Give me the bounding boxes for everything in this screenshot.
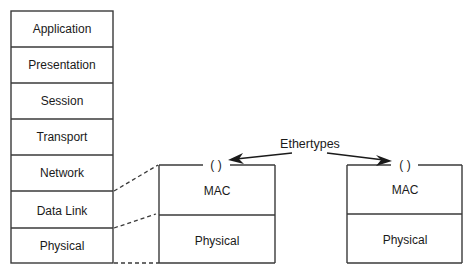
diagram-canvas: Application Presentation Session Transpo… — [0, 0, 475, 277]
ethertype-field: ( ) — [210, 158, 221, 172]
arrow-right-shaft — [327, 153, 384, 160]
ethertypes-annotation: Ethertypes — [228, 137, 392, 166]
physical-layer-label: Physical — [383, 233, 428, 247]
ethertypes-label: Ethertypes — [280, 137, 340, 151]
layer-presentation: Presentation — [28, 58, 95, 72]
ethertype-field: ( ) — [399, 158, 410, 172]
ethernet-stack-2: ( ) MAC Physical — [347, 158, 462, 263]
layer-physical: Physical — [40, 239, 85, 253]
mapping-lines — [114, 165, 159, 263]
layer-transport: Transport — [37, 130, 89, 144]
osi-stack: Application Presentation Session Transpo… — [11, 11, 113, 263]
ethertype-diagram: Application Presentation Session Transpo… — [0, 0, 475, 277]
layer-network: Network — [40, 166, 85, 180]
ethernet-stack-1: ( ) MAC Physical — [159, 158, 275, 263]
mac-layer-label: MAC — [392, 183, 419, 197]
mac-layer-label: MAC — [204, 184, 231, 198]
layer-application: Application — [33, 22, 92, 36]
physical-layer-label: Physical — [195, 234, 240, 248]
layer-session: Session — [41, 94, 84, 108]
arrow-left-shaft — [236, 153, 292, 159]
dashed-line-network-to-mac — [114, 165, 158, 191]
dashed-line-datalink-to-physical — [114, 214, 156, 228]
layer-data-link: Data Link — [37, 204, 89, 218]
